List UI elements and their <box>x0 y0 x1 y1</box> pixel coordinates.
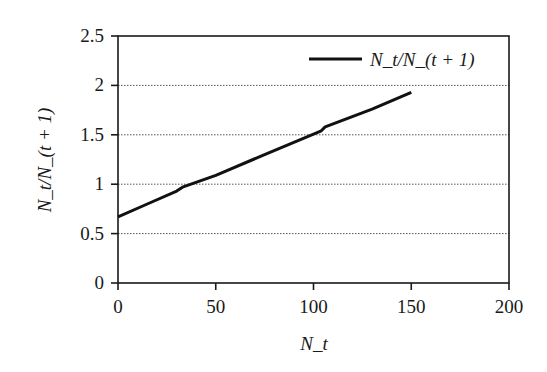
legend: N_t/N_(t + 1) <box>309 49 475 71</box>
y-axis-label: N_t/N_(t + 1) <box>34 108 56 214</box>
x-axis-label: N_t <box>299 333 328 354</box>
y-axis-ticks: 00.511.522.5 <box>80 25 118 293</box>
legend-label: N_t/N_(t + 1) <box>369 49 475 71</box>
gridlines <box>118 85 509 233</box>
chart: 00.511.522.5 050100150200 N_t/N_(t + 1) … <box>0 0 547 372</box>
y-tick-label: 0 <box>95 272 105 293</box>
y-tick-label: 1.5 <box>80 124 104 145</box>
data-line <box>118 92 411 217</box>
plot-area-frame <box>118 36 509 283</box>
y-tick-label: 2.5 <box>80 25 104 46</box>
y-tick-label: 2 <box>95 74 105 95</box>
y-tick-label: 1 <box>95 173 105 194</box>
x-tick-label: 50 <box>206 296 225 317</box>
x-tick-label: 0 <box>113 296 123 317</box>
y-tick-label: 0.5 <box>80 223 104 244</box>
x-tick-label: 150 <box>397 296 426 317</box>
x-tick-label: 200 <box>495 296 524 317</box>
x-tick-label: 100 <box>299 296 328 317</box>
x-axis-ticks: 050100150200 <box>113 283 523 317</box>
